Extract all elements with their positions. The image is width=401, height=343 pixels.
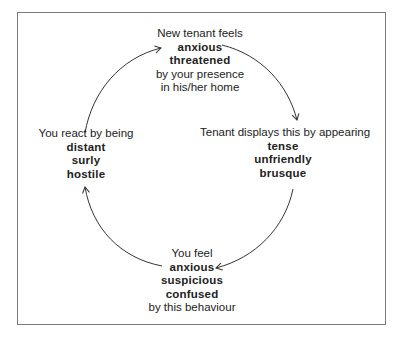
node-emphasis-term: anxious [112,261,272,275]
node-emphasis-term: brusque [200,167,366,181]
node-new-tenant-feels: New tenant feels anxious threatened by y… [120,27,280,95]
node-emphasis-term: confused [112,288,272,302]
node-intro: New tenant feels [120,27,280,41]
node-you-react: You react by being distant surly hostile [26,127,146,181]
node-outro: in his/her home [120,81,280,95]
node-outro: by this behaviour [112,301,272,315]
node-intro: Tenant displays this by appearing [200,126,366,140]
node-tenant-displays: Tenant displays this by appearing tense … [200,126,366,180]
node-intro: You feel [112,247,272,261]
node-outro: by your presence [120,68,280,82]
node-you-feel: You feel anxious suspicious confused by … [112,247,272,315]
node-emphasis-term: suspicious [112,274,272,288]
node-emphasis-term: threatened [120,54,280,68]
node-intro: You react by being [26,127,146,141]
node-emphasis-term: hostile [26,168,146,182]
node-emphasis-term: anxious [120,41,280,55]
node-emphasis-term: tense [200,140,366,154]
node-emphasis-term: distant [26,141,146,155]
node-emphasis-term: surly [26,154,146,168]
node-emphasis-term: unfriendly [200,153,366,167]
